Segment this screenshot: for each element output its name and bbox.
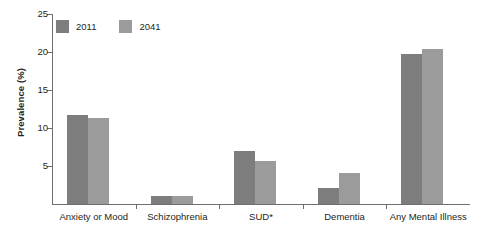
- category-label: Dementia: [303, 210, 387, 223]
- legend-label: 2011: [76, 20, 96, 33]
- y-axis-title: Prevalence (%): [14, 0, 28, 205]
- category-label: Any Mental Illness: [386, 210, 470, 223]
- y-tick-label: 25: [37, 8, 48, 19]
- bar: [67, 115, 88, 204]
- y-tick-label: 20: [37, 46, 48, 57]
- legend-item: 2011: [56, 20, 96, 33]
- bar-group: [304, 14, 388, 204]
- bar-chart: Prevalence (%) 510152025 Anxiety or Mood…: [0, 0, 481, 235]
- bar-group: [387, 14, 471, 204]
- x-axis-line: [52, 204, 470, 205]
- legend-swatch: [56, 20, 69, 33]
- y-tick-label: 15: [37, 84, 48, 95]
- category-label: Schizophrenia: [136, 210, 220, 223]
- bar: [422, 49, 443, 204]
- bar: [255, 161, 276, 204]
- category-separator: [303, 204, 304, 209]
- bar: [172, 196, 193, 204]
- legend-label: 2041: [139, 20, 160, 33]
- category-separator: [136, 204, 137, 209]
- legend-item: 2041: [119, 20, 160, 33]
- chart-legend: 20112041: [56, 19, 184, 33]
- bar: [339, 173, 360, 204]
- category-label: Anxiety or Mood: [52, 210, 136, 223]
- category-separator: [386, 204, 387, 209]
- plot-area: 510152025: [52, 14, 470, 204]
- x-axis-category-labels: Anxiety or MoodSchizophreniaSUD*Dementia…: [52, 210, 470, 226]
- bar: [318, 188, 339, 204]
- bar-group: [137, 14, 221, 204]
- category-label: SUD*: [219, 210, 303, 223]
- category-separator: [219, 204, 220, 209]
- legend-swatch: [119, 20, 132, 33]
- bar: [88, 118, 109, 204]
- y-tick-label: 10: [37, 122, 48, 133]
- bar-group: [53, 14, 137, 204]
- bar: [151, 196, 172, 204]
- bar-group: [220, 14, 304, 204]
- bar: [234, 151, 255, 204]
- bar-groups: [53, 14, 470, 204]
- y-tick-label: 5: [43, 160, 48, 171]
- bar: [401, 54, 422, 204]
